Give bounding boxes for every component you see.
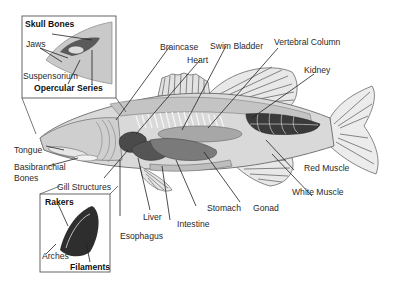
label-rakers: Rakers <box>45 198 74 207</box>
label-intestine: Intestine <box>177 220 210 229</box>
label-red-muscle: Red Muscle <box>304 164 349 173</box>
label-basibranchial: Basibranchial <box>14 163 66 172</box>
label-filaments: Filaments <box>70 263 110 272</box>
label-gill-structures: Gill Structures <box>57 183 111 192</box>
label-suspensorium: Suspensorium <box>23 72 78 81</box>
label-heart: Heart <box>187 56 208 65</box>
label-white-muscle: White Muscle <box>292 188 344 197</box>
caudal-fin <box>330 86 378 174</box>
label-opercular-series: Opercular Series <box>34 84 103 93</box>
label-basibranchial-bones: Bones <box>14 174 38 183</box>
label-kidney: Kidney <box>304 66 330 75</box>
label-tongue: Tongue <box>14 146 42 155</box>
label-liver: Liver <box>143 213 162 222</box>
label-skull-bones: Skull Bones <box>25 20 74 29</box>
label-swim-bladder: Swim Bladder <box>210 42 263 51</box>
label-arches: Arches <box>42 252 69 261</box>
label-gonad: Gonad <box>253 204 279 213</box>
label-braincase: Braincase <box>160 43 198 52</box>
label-vertebral-column: Vertebral Column <box>274 38 340 47</box>
label-stomach: Stomach <box>207 204 241 213</box>
label-jaws: Jaws <box>26 40 46 49</box>
dorsal-fin-spiny <box>158 73 210 96</box>
label-esophagus: Esophagus <box>120 232 163 241</box>
